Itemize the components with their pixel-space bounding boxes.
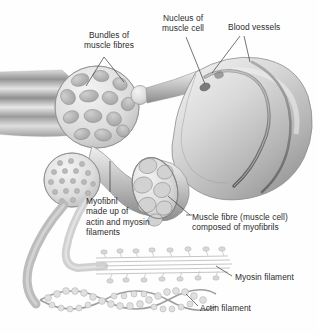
muscle-structure-artwork <box>0 0 318 334</box>
diagram-canvas: Bundles of muscle fibres Nucleus of musc… <box>0 0 318 334</box>
label-muscle-fibre-muscle-cell: Muscle fibre (muscle cell) composed of m… <box>192 212 318 233</box>
label-actin-filament: Actin filament <box>200 303 278 313</box>
label-myofibril-composition: Myofibril made up of actin and myosin fi… <box>86 196 172 237</box>
label-nucleus-of-muscle-cell: Nucleus of muscle cell <box>152 13 214 34</box>
label-blood-vessels: Blood vessels <box>228 22 304 32</box>
actin-filament-helix <box>40 288 216 312</box>
fascicle-cross-section <box>55 66 139 148</box>
myosin-filament-bundle <box>96 247 232 283</box>
label-myosin-filament: Myosin filament <box>235 272 317 282</box>
label-bundles-of-muscle-fibres: Bundles of muscle fibres <box>66 30 152 51</box>
